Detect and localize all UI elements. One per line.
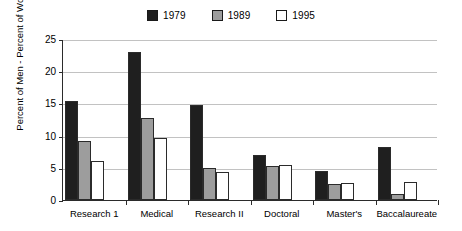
bar-1989[interactable] [328, 184, 341, 200]
x-tick-mark [188, 200, 189, 205]
x-axis-label: Master's [313, 208, 376, 219]
bar-1995[interactable] [279, 165, 292, 200]
bar-1995[interactable] [91, 161, 104, 200]
x-tick-mark [251, 200, 252, 205]
bar-1995[interactable] [216, 172, 229, 200]
bar-1979[interactable] [65, 101, 78, 200]
bar-1989[interactable] [203, 168, 216, 200]
legend-label-1995: 1995 [292, 10, 315, 21]
x-tick-mark [438, 200, 439, 205]
y-tick-label: 20 [45, 67, 56, 77]
legend-swatch-1995 [276, 10, 287, 21]
bar-1989[interactable] [141, 118, 154, 200]
x-axis-label: Medical [126, 208, 189, 219]
bar-group [251, 40, 314, 200]
y-axis-title: Percent of Men - Percent of Women [13, 0, 27, 140]
x-tick-mark [376, 200, 377, 205]
legend-item: 1995 [276, 10, 315, 21]
bar-group [313, 40, 376, 200]
bar-1979[interactable] [190, 105, 203, 200]
legend-swatch-1979 [147, 10, 158, 21]
y-tick-label: 0 [50, 196, 56, 206]
x-axis-label: Baccalaureate [376, 208, 439, 219]
legend-swatch-1989 [212, 10, 223, 21]
x-axis-label: Doctoral [251, 208, 314, 219]
bar-1995[interactable] [154, 138, 167, 200]
bar-group [126, 40, 189, 200]
bar-group [376, 40, 439, 200]
y-tick-label: 25 [45, 35, 56, 45]
plot-area: 0510152025 Research 1MedicalResearch IID… [62, 40, 437, 201]
bar-1989[interactable] [266, 166, 279, 200]
bar-1995[interactable] [341, 183, 354, 200]
y-tick-label: 15 [45, 99, 56, 109]
bar-1989[interactable] [391, 194, 404, 200]
legend-item: 1989 [212, 10, 251, 21]
x-axis-label: Research 1 [63, 208, 126, 219]
chart-legend: 1979 1989 1995 [0, 10, 462, 21]
x-axis-label: Research II [188, 208, 251, 219]
y-tick-label: 10 [45, 132, 56, 142]
bar-1979[interactable] [128, 52, 141, 200]
legend-label-1979: 1979 [163, 10, 186, 21]
bar-1995[interactable] [404, 182, 417, 200]
legend-item: 1979 [147, 10, 186, 21]
x-tick-mark [313, 200, 314, 205]
bar-1979[interactable] [378, 147, 391, 200]
bar-1979[interactable] [315, 171, 328, 200]
bar-1979[interactable] [253, 155, 266, 200]
legend-label-1989: 1989 [228, 10, 251, 21]
y-tick-mark [59, 201, 63, 202]
bar-group [63, 40, 126, 200]
x-tick-mark [126, 200, 127, 205]
bar-group [188, 40, 251, 200]
bar-1989[interactable] [78, 141, 91, 200]
y-tick-label: 5 [50, 164, 56, 174]
